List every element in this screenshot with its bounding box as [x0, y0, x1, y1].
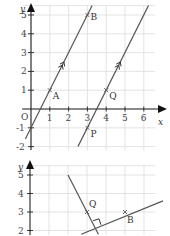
x-tick-label: 4 [103, 113, 109, 123]
x-tick-label: 3 [84, 113, 90, 123]
origin-label: O [21, 112, 28, 122]
point-label-b: B [90, 12, 97, 22]
line-PQ [78, 6, 149, 147]
ticks: 123456-2-112345 [16, 10, 147, 152]
x-axis-label: x [158, 117, 163, 127]
y-tick-label: 1 [21, 85, 27, 95]
ticks: 2345 [18, 170, 33, 235]
point-label-q: Q [89, 199, 96, 209]
lines [68, 175, 163, 234]
lines [25, 6, 148, 147]
point-label-q: Q [109, 91, 116, 101]
y-axis-arrow-icon [27, 3, 35, 12]
y-tick-label: 5 [21, 10, 27, 20]
diagram: y x O 123456-2-112345 ABQP y 2345 QB [0, 0, 170, 235]
x-axis-arrow-icon [158, 105, 167, 113]
point-label-p: P [90, 129, 96, 139]
y-tick-label: 4 [21, 29, 27, 39]
parallel-lines-graph: y x O 123456-2-112345 ABQP [16, 3, 167, 152]
perpendicular-lines-graph: y 2345 QB [17, 160, 163, 235]
x-tick-label: 2 [66, 113, 72, 123]
y-tick-label: 3 [18, 207, 24, 217]
x-tick-label: 1 [47, 113, 53, 123]
y-tick-label: 5 [18, 170, 24, 180]
y-tick-label: -2 [16, 142, 25, 152]
point-label-b: B [127, 215, 134, 225]
y-tick-label: 3 [21, 48, 27, 58]
y-tick-label: -1 [16, 123, 25, 133]
point-label-a: A [52, 91, 60, 101]
y-tick-label: 2 [21, 66, 27, 76]
line-AB [25, 6, 92, 139]
x-tick-label: 6 [141, 113, 147, 123]
y-tick-label: 4 [18, 189, 24, 199]
grid [23, 6, 155, 151]
right-angle-marker [93, 219, 101, 225]
y-tick-label: 2 [18, 226, 24, 236]
y-axis-arrow-icon [26, 160, 34, 169]
x-tick-label: 5 [122, 113, 128, 123]
